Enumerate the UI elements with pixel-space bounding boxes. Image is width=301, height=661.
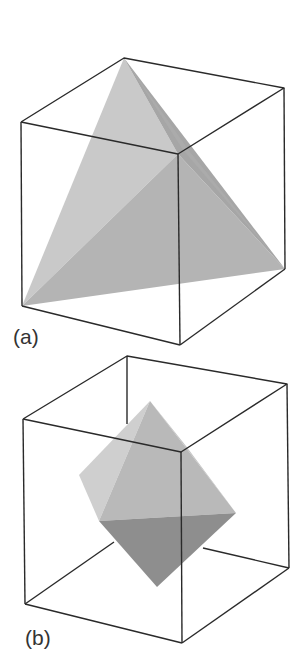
octahedron-face-lower-front <box>99 513 236 587</box>
cube-b-edge-right <box>287 384 289 568</box>
cube-b-edge-front <box>181 452 182 643</box>
cube-b-back-bottom-right <box>203 548 289 568</box>
figure-a-tetrahedron-in-cube <box>21 58 285 345</box>
cube-b-back-bottom-left <box>25 542 114 604</box>
cube-b-edge-left <box>23 419 25 604</box>
figure-b-label: (b) <box>25 627 51 648</box>
cube-b-edge-bottom-right <box>182 568 289 643</box>
figure-a-label: (a) <box>13 326 39 347</box>
cube-a-edge-bottom-left <box>22 306 180 345</box>
cube-a-edge-right <box>284 88 285 269</box>
figure-b-octahedron-in-cube <box>23 356 289 643</box>
figure-canvas <box>0 0 301 661</box>
cube-a-edge-left <box>21 122 22 306</box>
